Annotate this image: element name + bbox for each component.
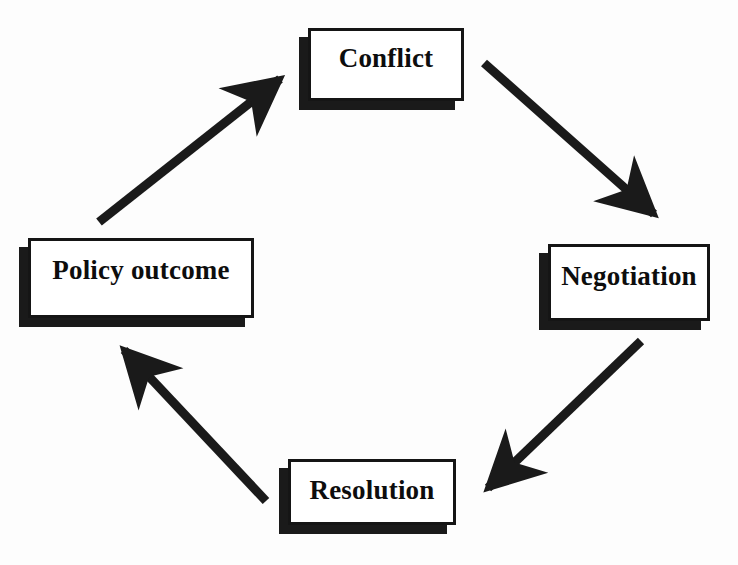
edge-negotiation-to-resolution: [488, 341, 641, 488]
diagram-canvas: Conflict Negotiation Resolution Policy o…: [0, 0, 738, 565]
node-resolution-label: Resolution: [309, 477, 434, 504]
node-conflict-label: Conflict: [339, 45, 434, 72]
node-policy-outcome-label: Policy outcome: [52, 257, 230, 284]
edge-policy-to-conflict: [99, 79, 280, 222]
node-policy-outcome[interactable]: Policy outcome: [28, 238, 254, 318]
node-conflict[interactable]: Conflict: [308, 28, 464, 101]
edge-resolution-to-policy: [124, 350, 266, 501]
node-resolution[interactable]: Resolution: [288, 459, 456, 525]
node-negotiation[interactable]: Negotiation: [548, 244, 710, 321]
edge-conflict-to-negotiation: [484, 63, 654, 214]
node-negotiation-label: Negotiation: [561, 263, 697, 290]
